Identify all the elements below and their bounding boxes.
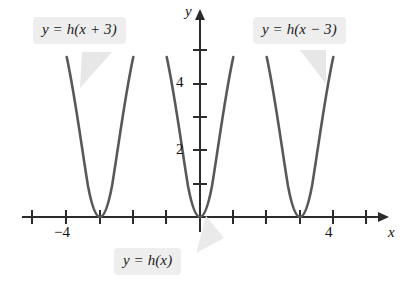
- y-tick-label-2: 2: [176, 141, 184, 158]
- y-tick-label-4: 4: [176, 74, 184, 91]
- y-axis-label: y: [185, 3, 192, 20]
- figure-background: [0, 0, 412, 296]
- x-tick-label--4: −4: [54, 224, 70, 241]
- annotation-callout-middle: y = h(x): [114, 248, 181, 275]
- annotation-callout-right: y = h(x − 3): [253, 17, 346, 44]
- x-axis-label: x: [388, 224, 395, 241]
- annotation-callout-left: y = h(x + 3): [33, 17, 126, 44]
- graph-figure: [0, 0, 412, 296]
- x-tick-label-4: 4: [325, 224, 333, 241]
